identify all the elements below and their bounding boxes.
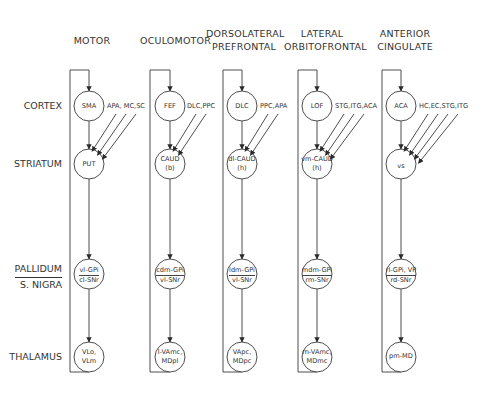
node-cingulate-thalamus: pm-MD bbox=[381, 352, 421, 361]
node-orbitofrontal-pallidum: mdm-GPirm-SNr bbox=[297, 266, 337, 285]
column-title-dorsolateral-prefrontal: DORSOLATERALPREFRONTAL bbox=[206, 27, 282, 53]
node-sma: SMA bbox=[69, 102, 109, 111]
inputs-motor: APA, MC,SC bbox=[107, 102, 145, 110]
node-aca: ACA bbox=[381, 102, 421, 111]
column-title-anterior-cingulate: ANTERIORCINGULATE bbox=[370, 27, 440, 53]
node-dorsolateral-pallidum: ldm-GPivl-SNr bbox=[222, 266, 262, 285]
node-motor-thalamus: VLo,VLm bbox=[69, 348, 109, 366]
inputs-dorsolateral: PPC,APA bbox=[260, 102, 287, 110]
node-orbitofrontal-thalamus: m-VAmc,MDmc bbox=[297, 348, 337, 366]
node-oculomotor-pallidum: cdm-GPivl-SNr bbox=[150, 266, 190, 285]
node-put: PUT bbox=[69, 160, 109, 169]
node-dlc: DLC bbox=[222, 102, 262, 111]
inputs-orbitofrontal: STG,ITG,ACA bbox=[335, 102, 377, 110]
node-lof: LOF bbox=[297, 102, 337, 111]
node-caud-b: CAUD(b) bbox=[150, 155, 190, 173]
node-cingulate-pallidum: rl-GPi, VPrd-SNr bbox=[381, 266, 421, 285]
node-oculomotor-thalamus: l-VAmc,MDpl bbox=[150, 348, 190, 366]
node-vs: vs bbox=[381, 162, 421, 171]
column-title-motor: MOTOR bbox=[62, 34, 122, 47]
column-title-oculomotor: OCULOMOTOR bbox=[140, 34, 210, 47]
node-vm-caud-h: vm-CAUD(h) bbox=[297, 155, 337, 173]
row-label-striatum: STRIATUM bbox=[0, 158, 62, 169]
row-label-pallidum-nigra: PALLIDUM S. NIGRA bbox=[0, 262, 62, 292]
node-dl-caud-h: dl-CAUD(h) bbox=[222, 155, 262, 173]
row-label-pallidum: PALLIDUM bbox=[15, 262, 62, 278]
node-fef: FEF bbox=[150, 102, 190, 111]
row-label-substantia-nigra: S. NIGRA bbox=[20, 279, 62, 290]
row-label-cortex: CORTEX bbox=[0, 100, 62, 111]
column-title-lateral-orbitofrontal: LATERALORBITOFRONTAL bbox=[284, 27, 360, 53]
inputs-cingulate: HC,EC,STG,ITG bbox=[419, 102, 468, 110]
inputs-oculomotor: DLC,PPC bbox=[187, 102, 215, 110]
row-label-thalamus: THALAMUS bbox=[0, 351, 62, 362]
node-dorsolateral-thalamus: VApc,MDpc bbox=[222, 348, 262, 366]
node-motor-pallidum: vl-GPicl-SNr bbox=[69, 266, 109, 285]
